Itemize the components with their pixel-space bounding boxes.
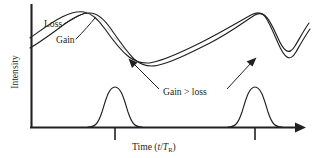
loss-label: Loss xyxy=(44,18,62,29)
gain-exceeds-loss-region-2 xyxy=(256,13,288,59)
figure-canvas: Loss Gain Gain > loss Intensity xyxy=(0,0,312,158)
gain-label: Gain xyxy=(56,34,75,45)
pulse-2-curve xyxy=(228,87,282,127)
gain-greater-than-loss-label: Gain > loss xyxy=(163,86,207,97)
x-axis-label-prefix: Time ( xyxy=(132,141,158,153)
y-axis-label: Intensity xyxy=(9,55,20,89)
pulse-1-curve xyxy=(88,87,142,127)
figure-root: Loss Gain Gain > loss Intensity xyxy=(0,0,312,158)
gain-leader-line xyxy=(76,18,95,39)
x-axis-arrowhead xyxy=(295,123,306,133)
x-axis-label-suffix: ) xyxy=(173,141,176,153)
arrow-to-second-gain-region xyxy=(227,58,257,90)
x-axis-label: Time (t/TR) xyxy=(132,141,176,153)
